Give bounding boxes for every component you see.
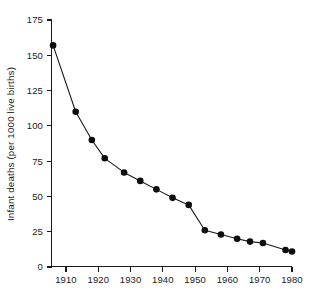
data-point — [153, 186, 160, 193]
data-point — [50, 42, 57, 49]
data-point — [169, 195, 176, 202]
data-point — [89, 137, 96, 144]
y-axis-title-text: Infant deaths (per 1000 live births) — [5, 67, 16, 221]
x-tick-label: 1910 — [55, 274, 77, 285]
data-point — [185, 202, 192, 209]
y-tick-label: 75 — [32, 156, 43, 167]
data-point — [282, 247, 289, 254]
y-tick-label: 0 — [38, 261, 43, 272]
data-point — [101, 155, 108, 162]
x-tick-label: 1920 — [88, 274, 110, 285]
x-tick-label: 1940 — [152, 274, 174, 285]
data-point — [121, 169, 128, 176]
data-point — [72, 108, 79, 115]
y-tick-label: 175 — [27, 14, 43, 25]
data-point — [218, 231, 225, 238]
y-axis-title: Infant deaths (per 1000 live births) — [5, 67, 16, 221]
x-tick-label: 1930 — [120, 274, 142, 285]
y-tick-label: 50 — [32, 191, 43, 202]
data-point — [202, 227, 209, 234]
y-tick-label: 150 — [27, 50, 43, 61]
chart-container: Infant deaths (per 1000 live births) 025… — [0, 0, 325, 298]
x-tick-label: 1980 — [281, 274, 303, 285]
chart-background — [0, 0, 325, 298]
infant-mortality-line-chart: Infant deaths (per 1000 live births) 025… — [0, 0, 325, 298]
y-tick-label: 125 — [27, 85, 43, 96]
data-point — [234, 235, 241, 242]
x-tick-label: 1950 — [184, 274, 206, 285]
x-tick-label: 1960 — [217, 274, 239, 285]
data-point — [289, 248, 296, 255]
y-tick-label: 100 — [27, 120, 43, 131]
data-point — [260, 240, 267, 247]
data-point — [137, 178, 144, 185]
x-tick-label: 1970 — [249, 274, 271, 285]
y-tick-label: 25 — [32, 226, 43, 237]
data-point — [247, 238, 254, 245]
